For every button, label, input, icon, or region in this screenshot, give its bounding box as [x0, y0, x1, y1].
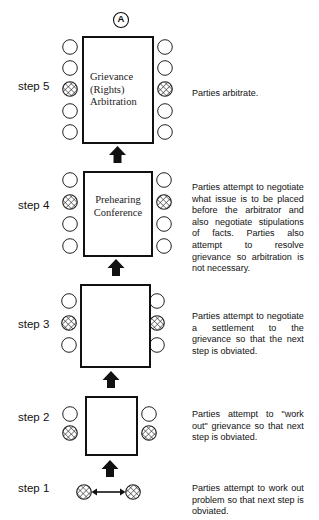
seat-icon [142, 407, 157, 422]
seat-icon [158, 61, 173, 76]
party-icon [157, 195, 172, 210]
party-icon [158, 82, 173, 97]
step-label-4: step 4 [18, 199, 49, 211]
seat-icon [63, 40, 78, 55]
step-label-2: step 2 [18, 411, 49, 423]
up-arrow-icon [108, 259, 125, 276]
step-description-4: Parties attempt to negotiate what issue … [192, 181, 304, 274]
seat-icon [63, 61, 78, 76]
table-step2 [85, 396, 138, 456]
step-description-5: Parties arbitrate. [192, 87, 304, 99]
seat-icon [158, 125, 173, 140]
up-arrow-icon [109, 146, 126, 163]
table-step3 [80, 284, 151, 368]
seat-icon [150, 294, 165, 309]
step-description-1: Parties attempt to work out problem so t… [192, 482, 304, 517]
party-icon [63, 82, 78, 97]
seat-icon [158, 104, 173, 119]
box-title-step5: Grievance (Rights) Arbitration [90, 71, 137, 109]
step-description-2: Parties attempt to "work out" grievance … [192, 408, 304, 443]
seat-icon [63, 239, 78, 254]
double-headed-arrow-icon [92, 489, 126, 496]
step1-parties [77, 485, 141, 500]
seat-icon [63, 125, 78, 140]
party-icon [63, 195, 78, 210]
seat-icon [158, 40, 173, 55]
step-label-5: step 5 [18, 80, 49, 92]
seat-icon [62, 294, 77, 309]
seat-icon [63, 104, 78, 119]
seat-icon [63, 217, 78, 232]
party-icon [150, 316, 165, 331]
step-description-3: Parties attempt to negotiate a settlemen… [192, 310, 304, 356]
box-title-step4: Prehearing Conference [88, 194, 148, 219]
table-step4: Prehearing Conference [83, 171, 153, 257]
step-label-3: step 3 [18, 318, 49, 330]
up-arrow-icon [103, 371, 120, 388]
party-icon [77, 485, 92, 500]
table-step5: Grievance (Rights) Arbitration [82, 36, 154, 144]
seat-icon [157, 173, 172, 188]
seat-icon [62, 338, 77, 353]
seat-icon [157, 239, 172, 254]
party-icon [126, 485, 141, 500]
seat-icon [157, 217, 172, 232]
party-icon [63, 426, 78, 441]
up-arrow-icon [102, 460, 119, 477]
seat-icon [150, 338, 165, 353]
seat-icon [63, 173, 78, 188]
party-icon [62, 316, 77, 331]
marker-a-label: A [117, 13, 125, 24]
party-icon [142, 426, 157, 441]
step-label-1: step 1 [18, 482, 49, 494]
seat-icon [63, 407, 78, 422]
